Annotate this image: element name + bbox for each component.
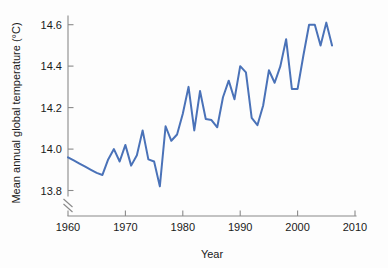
global-temperature-line-chart: 13.814.014.214.414.6 1960197019801990200… <box>0 0 388 268</box>
x-axis-tick-labels: 196019701980199020002010 <box>56 221 367 233</box>
x-tick-label: 2000 <box>285 221 309 233</box>
axis-break-icon <box>64 199 73 212</box>
y-tick-label: 14.0 <box>41 143 62 155</box>
x-tick-label: 2010 <box>343 221 367 233</box>
chart-page: 13.814.014.214.414.6 1960197019801990200… <box>0 0 388 268</box>
y-tick-label: 14.6 <box>41 19 62 31</box>
y-axis-tick-labels: 13.814.014.214.414.6 <box>41 19 62 197</box>
y-axis-ticks <box>68 25 74 191</box>
y-tick-label: 14.2 <box>41 102 62 114</box>
x-tick-label: 1960 <box>56 221 80 233</box>
x-tick-label: 1970 <box>113 221 137 233</box>
y-tick-label: 14.4 <box>41 60 62 72</box>
y-axis-title: Mean annual global temperature (°C) <box>10 22 22 203</box>
y-tick-label: 13.8 <box>41 185 62 197</box>
x-tick-label: 1980 <box>171 221 195 233</box>
x-axis-ticks <box>68 211 355 217</box>
x-axis-title: Year <box>201 248 224 260</box>
x-tick-label: 1990 <box>228 221 252 233</box>
temperature-series-line <box>68 23 332 187</box>
